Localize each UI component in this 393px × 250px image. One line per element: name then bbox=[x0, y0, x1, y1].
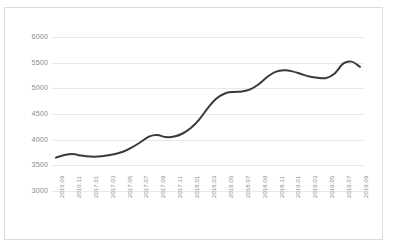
data-series-line bbox=[5, 8, 384, 241]
line-chart-plot-area: 60005500500045004000350030002016.092016.… bbox=[5, 8, 384, 241]
series-path bbox=[56, 61, 360, 157]
chart-card: 60005500500045004000350030002016.092016.… bbox=[4, 7, 383, 240]
